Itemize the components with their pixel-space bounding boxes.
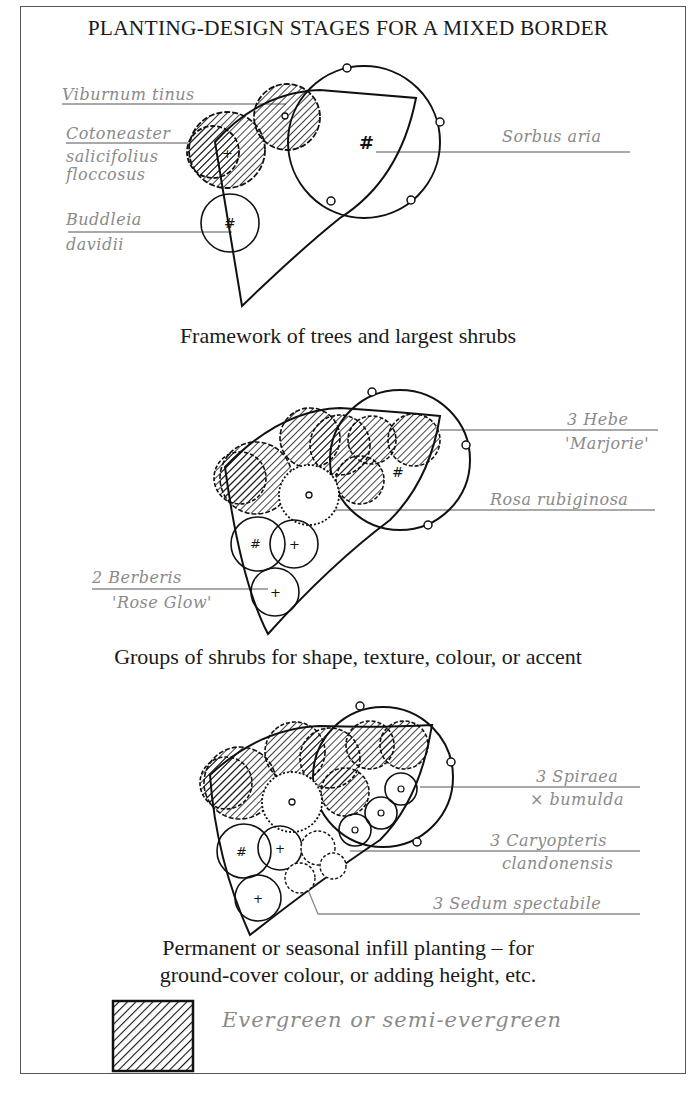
buddleia-davidii-plant: #	[201, 194, 259, 252]
label-spiraea-1: 3 Spiraea	[536, 767, 618, 786]
rosa-rubiginosa-plant	[279, 465, 339, 525]
label-buddleia-1: Buddleia	[65, 210, 142, 229]
berberis-rose-glow-plants: + +	[251, 520, 318, 616]
label-hebe-1: 3 Hebe	[567, 410, 628, 429]
label-caryopteris-2: clandonensis	[502, 854, 613, 873]
label-buddleia-2: davidii	[66, 235, 124, 254]
svg-text:+: +	[275, 842, 285, 856]
svg-text:#: #	[250, 536, 261, 551]
svg-text:#: #	[224, 215, 236, 231]
stage-3-caption-line1: Permanent or seasonal infill planting – …	[0, 934, 696, 961]
caryopteris-plants	[285, 831, 346, 893]
stage-2-diagram: # # + + 3 Hebe 'Marjorie' Rosa rubiginos…	[91, 388, 658, 634]
legend-swatch	[113, 1001, 193, 1071]
svg-text:#: #	[359, 132, 374, 153]
label-sorbus: Sorbus aria	[502, 127, 601, 146]
sorbus-aria-plant: #	[288, 64, 444, 218]
label-spiraea-2: × bumulda	[530, 790, 624, 809]
legend-label: Evergreen or semi-evergreen	[222, 1008, 562, 1032]
svg-text:+: +	[222, 146, 233, 161]
stage-3-diagram: # + + 3 Spiraea × bumulda 3 Caryopteris …	[200, 702, 640, 935]
label-sedum: 3 Sedum spectabile	[433, 894, 601, 913]
stage-2-caption: Groups of shrubs for shape, texture, col…	[0, 643, 696, 670]
label-cotoneaster-2: salicifolius	[66, 147, 158, 166]
label-berberis-2: 'Rose Glow'	[112, 593, 212, 612]
svg-text:+: +	[289, 537, 300, 552]
label-rosa: Rosa rubiginosa	[489, 490, 628, 509]
stage-1-caption: Framework of trees and largest shrubs	[0, 322, 696, 349]
svg-text:#: #	[392, 464, 404, 480]
stage-1-diagram: # + # Viburnum tinus Cotoneaster salicif…	[62, 64, 630, 306]
label-cotoneaster-3: floccosus	[65, 165, 145, 184]
svg-text:+: +	[253, 892, 263, 906]
svg-text:#: #	[236, 844, 247, 859]
label-cotoneaster-1: Cotoneaster	[66, 124, 171, 143]
label-berberis-1: 2 Berberis	[91, 568, 182, 587]
label-hebe-2: 'Marjorie'	[565, 434, 649, 453]
svg-text:+: +	[270, 585, 281, 600]
cotoneaster-plant: +	[187, 112, 265, 188]
label-viburnum: Viburnum tinus	[62, 85, 195, 104]
label-caryopteris-1: 3 Caryopteris	[490, 831, 607, 850]
stage-3-caption-line2: ground-cover colour, or adding height, e…	[0, 961, 696, 988]
